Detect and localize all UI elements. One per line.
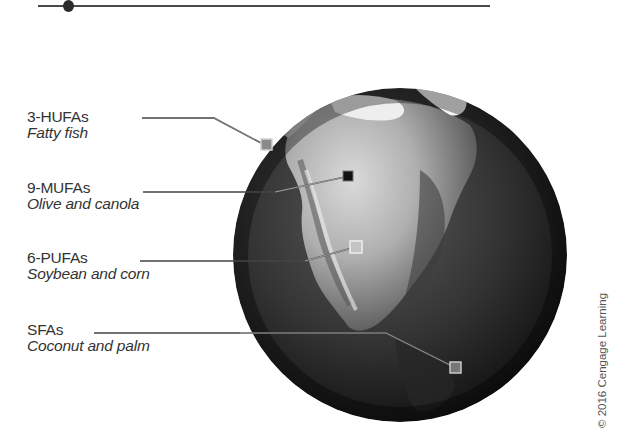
globe-figure [0,0,628,448]
label-mufa: 9-MUFAs Olive and canola [27,180,139,212]
food-source: Fatty fish [27,125,88,141]
marker-hufa [261,139,272,150]
food-source: Olive and canola [27,196,139,212]
food-source: Soybean and corn [27,266,150,282]
fatty-acid-type: 6-PUFAs [27,250,150,266]
copyright-credit: © 2016 Cengage Learning [596,293,608,428]
fatty-acid-type: 3-HUFAs [27,109,88,125]
marker-sfa [450,362,461,373]
food-source: Coconut and palm [27,338,150,354]
marker-mufa [343,171,353,181]
fatty-acid-type: SFAs [27,322,150,338]
marker-pufa [350,241,362,253]
leader-line-hufa [142,118,263,144]
label-pufa: 6-PUFAs Soybean and corn [27,250,150,282]
label-sfa: SFAs Coconut and palm [27,322,150,354]
globe [233,70,567,422]
fatty-acid-type: 9-MUFAs [27,180,139,196]
label-hufa: 3-HUFAs Fatty fish [27,109,88,141]
